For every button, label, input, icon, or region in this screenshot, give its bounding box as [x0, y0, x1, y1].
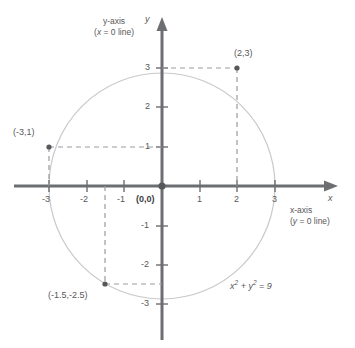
x-tick-label-neg3: -3 — [42, 194, 50, 205]
coordinate-plane-figure: y x y-axis (x = 0 line) x-axis (y = 0 li… — [0, 0, 355, 348]
point-label-neg15-neg25: (-1.5,-2.5) — [48, 290, 88, 301]
x-tick-label-neg2: -2 — [80, 194, 88, 205]
y-tick-label-neg2: -2 — [141, 259, 149, 270]
data-point-neg3-1 — [46, 144, 51, 149]
data-point-2-3 — [234, 65, 239, 70]
y-tick-label-3: 3 — [145, 62, 150, 73]
x-axis-variable-label: x — [328, 193, 333, 204]
y-axis-caption-rest: = 0 line) — [101, 27, 134, 37]
y-axis-caption-line2: (x = 0 line) — [82, 27, 146, 38]
y-tick-label-neg1: -1 — [141, 220, 149, 231]
data-point-origin — [158, 182, 165, 189]
x-tick-label-1: 1 — [197, 194, 202, 205]
x-axis-caption-line2: (y = 0 line) — [290, 216, 354, 227]
x-axis-arrowhead — [324, 181, 338, 192]
y-tick-label-1: 1 — [145, 141, 150, 152]
origin-label: (0,0) — [136, 194, 155, 205]
y-axis-caption: y-axis (x = 0 line) — [82, 16, 146, 38]
x-tick-label-2: 2 — [234, 194, 239, 205]
y-tick-label-2: 2 — [145, 101, 150, 112]
y-axis-caption-line1: y-axis — [82, 16, 146, 27]
x-tick-label-neg1: -1 — [117, 194, 125, 205]
y-tick-label-neg3: -3 — [141, 298, 149, 309]
x-tick-label-3: 3 — [272, 194, 277, 205]
equation-plus-y: + y — [238, 281, 253, 291]
data-point-neg15-neg25 — [102, 281, 107, 286]
y-axis-arrowhead — [157, 17, 168, 31]
x-axis-caption-rest: = 0 line) — [297, 216, 330, 226]
x-axis-caption-line1: x-axis — [290, 205, 354, 216]
point-label-neg3-1: (-3,1) — [13, 127, 35, 138]
point-label-2-3: (2,3) — [234, 48, 253, 59]
x-axis-caption: x-axis (y = 0 line) — [290, 205, 354, 227]
circle-equation-label: x2 + y2 = 9 — [230, 281, 272, 292]
equation-equals-nine: = 9 — [257, 281, 272, 291]
